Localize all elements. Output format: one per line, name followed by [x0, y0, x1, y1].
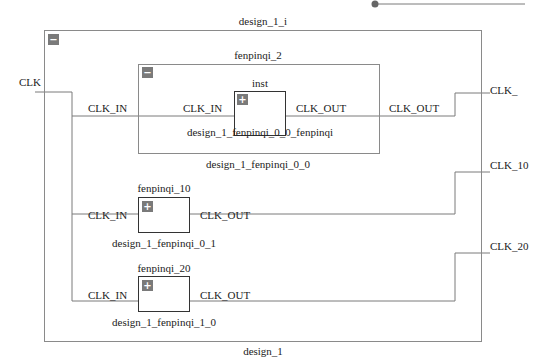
inner-pin-in-label: CLK_IN: [183, 102, 222, 114]
inner-cell-instance-label: inst: [252, 77, 268, 89]
inner-pin-out-label: CLK_OUT: [296, 102, 346, 114]
cell-pin-in-label: CLK_IN: [88, 209, 127, 221]
port-clk-10[interactable]: CLK_10: [490, 159, 529, 171]
collapse-icon[interactable]: −: [142, 67, 153, 78]
port-clk-20[interactable]: CLK_20: [490, 240, 529, 252]
hier-cell-type-label: design_1_fenpinqi_0_0: [206, 158, 310, 170]
port-clk[interactable]: CLK: [19, 76, 41, 88]
cell-type-label: design_1_fenpinqi_1_0: [112, 316, 216, 328]
inner-cell-type-label: design_1_fenpinqi_0_0_fenpinqi: [187, 126, 333, 138]
hier-pin-in-label: CLK_IN: [88, 102, 127, 114]
expand-icon[interactable]: +: [237, 94, 248, 105]
cell-pin-in-label: CLK_IN: [88, 289, 127, 301]
port-clk-out[interactable]: CLK_: [490, 84, 518, 96]
expand-icon[interactable]: +: [142, 201, 153, 212]
cell-instance-label: fenpinqi_10: [137, 182, 190, 194]
cell-pin-out-label: CLK_OUT: [200, 209, 250, 221]
collapse-icon[interactable]: −: [48, 34, 59, 45]
scroll-thumb: [372, 1, 379, 8]
design-instance-label: design_1_i: [239, 15, 287, 27]
cell-type-label: design_1_fenpinqi_0_1: [112, 237, 216, 249]
hier-cell-instance-label: fenpinqi_2: [234, 49, 282, 61]
hier-pin-out-label: CLK_OUT: [389, 102, 439, 114]
cell-instance-label: fenpinqi_20: [137, 262, 190, 274]
expand-icon[interactable]: +: [142, 280, 153, 291]
design-type-label: design_1: [243, 345, 283, 357]
cell-pin-out-label: CLK_OUT: [200, 289, 250, 301]
